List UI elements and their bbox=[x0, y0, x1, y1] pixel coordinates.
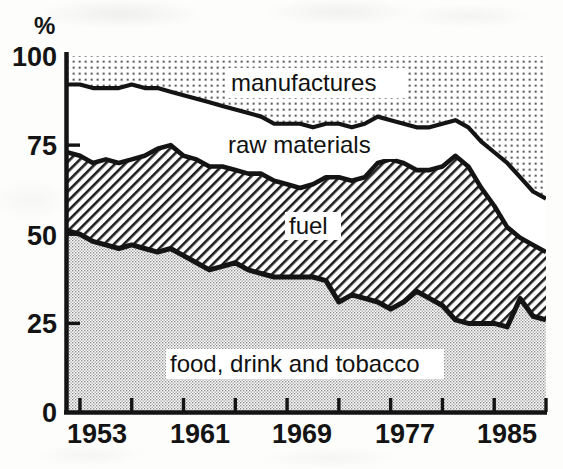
figure-root: % 100 75 50 25 0 1953 1961 1969 1977 198… bbox=[0, 0, 563, 469]
series-label-fuel-group: fuel bbox=[285, 212, 341, 240]
series-label-raw-materials-group: raw materials bbox=[224, 131, 396, 159]
series-label-fuel: fuel bbox=[289, 212, 328, 239]
y-tick-label-50: 50 bbox=[27, 221, 57, 251]
series-label-raw-materials: raw materials bbox=[228, 131, 371, 158]
series-label-manufactures: manufactures bbox=[231, 69, 376, 96]
series-label-food: food, drink and tobacco bbox=[170, 350, 420, 377]
x-tick-label-1985: 1985 bbox=[477, 419, 537, 449]
x-tick-label-1969: 1969 bbox=[272, 419, 332, 449]
y-tick-label-25: 25 bbox=[27, 309, 57, 339]
x-tick-label-1961: 1961 bbox=[170, 419, 230, 449]
series-label-food-group: food, drink and tobacco bbox=[166, 349, 444, 379]
y-axis-unit-label: % bbox=[34, 12, 55, 39]
y-tick-label-100: 100 bbox=[12, 42, 57, 72]
y-tick-label-75: 75 bbox=[27, 131, 57, 161]
x-tick-label-1977: 1977 bbox=[375, 419, 435, 449]
x-tick-label-1953: 1953 bbox=[67, 419, 127, 449]
y-tick-label-0: 0 bbox=[42, 398, 57, 428]
stacked-area-chart: % 100 75 50 25 0 1953 1961 1969 1977 198… bbox=[0, 0, 563, 469]
series-label-manufactures-group: manufactures bbox=[227, 68, 407, 98]
